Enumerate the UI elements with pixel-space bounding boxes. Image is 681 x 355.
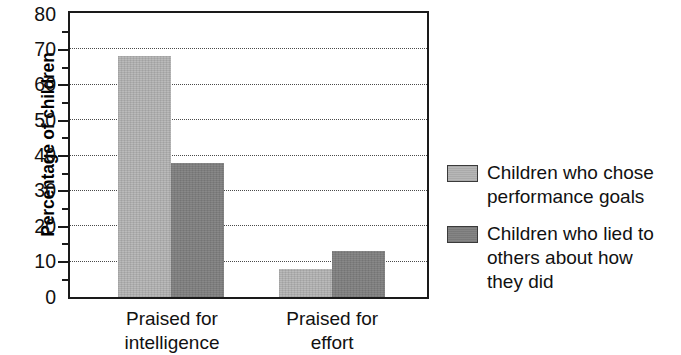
y-axis-tick-label-30: 30 [2,179,56,202]
bar-chart-figure: Percentage of children 80706050403020100… [0,0,681,355]
bar-group2-series1 [279,269,332,297]
y-axis-tick-label-20: 20 [2,214,56,237]
x-axis-category-label-2: Praised for effort [222,307,442,355]
y-axis-tick-label-group: 80706050403020100 [0,0,56,355]
y-axis-tick-label-70: 70 [2,37,56,60]
y-axis-tick-label-0: 0 [2,285,56,308]
plot-inner [70,13,427,297]
dark-gray-swatch [447,226,478,243]
legend-item-label-2: Children who lied to others about how th… [487,222,654,294]
y-axis-tick-label-10: 10 [2,250,56,273]
gridline-70 [70,48,427,49]
y-axis-tick-label-80: 80 [2,2,56,25]
chart-legend: Children who chose performance goalsChil… [447,161,681,307]
light-gray-swatch [447,165,478,182]
plot-area [68,11,429,299]
bar-group1-series2 [171,163,224,297]
legend-item-1[interactable]: Children who chose performance goals [447,161,681,209]
y-axis-tick-label-60: 60 [2,73,56,96]
bar-group1-series1 [118,56,171,297]
bar-group2-series2 [332,251,385,297]
y-axis-tick-label-50: 50 [2,108,56,131]
legend-item-2[interactable]: Children who lied to others about how th… [447,222,681,294]
y-axis-tick-label-40: 40 [2,144,56,167]
legend-item-label-1: Children who chose performance goals [487,161,654,209]
